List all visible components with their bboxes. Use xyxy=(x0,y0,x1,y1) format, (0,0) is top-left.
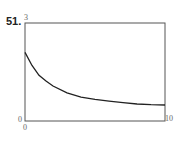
plot-area xyxy=(0,0,180,161)
plot-frame xyxy=(25,23,165,121)
data-curve xyxy=(25,52,165,105)
